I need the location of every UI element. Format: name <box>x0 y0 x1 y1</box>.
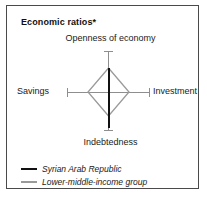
legend-line-icon-series-a <box>21 168 37 170</box>
legend-label-series-a: Syrian Arab Republic <box>42 164 122 174</box>
axis-label-openness: Openness of economy <box>7 33 207 43</box>
economic-ratios-figure: Economic ratios* Openness of economy Inv… <box>0 0 207 202</box>
axis-label-indebtedness: Indebtedness <box>7 137 207 147</box>
axis-label-savings: Savings <box>17 86 49 96</box>
legend-line-icon-series-b <box>21 181 37 183</box>
radar-diamond-plot <box>57 46 161 136</box>
chart-panel: Economic ratios* Openness of economy Inv… <box>6 5 199 189</box>
legend-label-series-b: Lower-middle-income group <box>42 177 147 187</box>
legend-item-syrian-arab-republic: Syrian Arab Republic <box>21 162 196 175</box>
chart-legend: Syrian Arab Republic Lower-middle-income… <box>21 162 196 188</box>
page-title: Economic ratios* <box>21 17 96 27</box>
legend-item-lower-middle-income-group: Lower-middle-income group <box>21 175 196 188</box>
